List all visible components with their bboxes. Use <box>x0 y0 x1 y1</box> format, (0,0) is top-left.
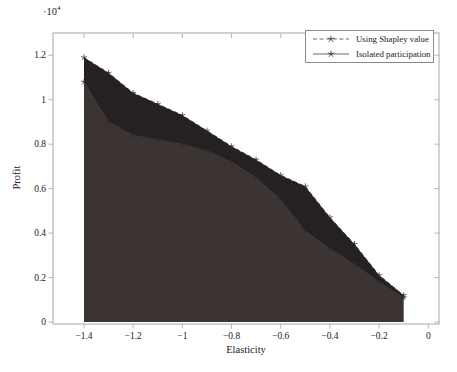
legend-label-isolated: Isolated participation <box>356 49 431 59</box>
y-tick-label: 1 <box>41 95 46 105</box>
y-tick-label: 0.6 <box>34 184 46 194</box>
x-tick-label: −0.2 <box>370 331 387 341</box>
dashed-line-star-marker-icon <box>311 33 351 45</box>
profit-elasticity-figure: −1.4−1.2−1−0.8−0.6−0.4−0.2000.20.40.60.8… <box>0 0 457 372</box>
y-tick-label: 1.2 <box>34 50 46 60</box>
y-tick-label: 0.2 <box>34 273 46 283</box>
legend-item-isolated: Isolated participation <box>306 47 433 62</box>
y-axis-multiplier-base: ·10 <box>43 6 57 17</box>
y-tick-label: 0.8 <box>34 139 46 149</box>
x-tick-label: −0.4 <box>321 331 338 341</box>
legend: Using Shapley value Isolated participati… <box>305 30 434 63</box>
x-tick-label: −1 <box>177 331 187 341</box>
y-axis-label: Profit <box>11 148 22 208</box>
y-tick-label: 0.4 <box>34 228 46 238</box>
y-axis-multiplier-exponent: 4 <box>57 4 61 12</box>
x-tick-label: −0.6 <box>272 331 289 341</box>
x-tick-label: −1.4 <box>75 331 92 341</box>
x-axis-label: Elasticity <box>53 344 439 355</box>
legend-label-shapley: Using Shapley value <box>356 34 429 44</box>
legend-item-shapley: Using Shapley value <box>306 32 433 47</box>
y-axis-multiplier: ·104 <box>43 4 61 17</box>
x-tick-label: −0.8 <box>223 331 240 341</box>
solid-line-star-marker-icon <box>311 48 351 60</box>
x-tick-label: 0 <box>426 331 431 341</box>
x-tick-label: −1.2 <box>125 331 142 341</box>
y-tick-label: 0 <box>41 317 46 327</box>
